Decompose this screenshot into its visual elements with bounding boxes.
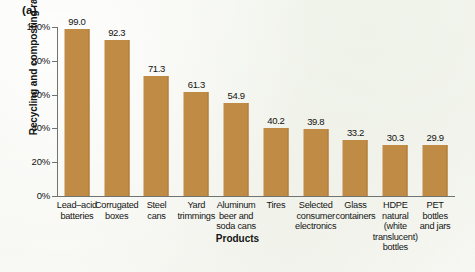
bar-value-label: 99.0 (68, 16, 85, 27)
x-axis-line (57, 196, 455, 197)
bar[interactable] (224, 103, 249, 196)
y-axis-tick-label-wrap: 60% (0, 89, 50, 100)
y-axis-tick-label: 0% (2, 190, 50, 201)
bar-group[interactable]: 61.3 (176, 27, 216, 196)
y-axis-tick-label-wrap: 0% (0, 190, 50, 201)
bar-group[interactable]: 30.3 (375, 27, 415, 196)
bar[interactable] (303, 129, 328, 196)
chart-figure: (a) Recycling and composting rate 100%80… (0, 0, 475, 272)
y-axis-tick-mark (52, 196, 58, 197)
bar-group[interactable]: 54.9 (216, 27, 256, 196)
bar-value-label: 54.9 (228, 90, 245, 101)
y-axis-tick-label: 100% (2, 21, 50, 32)
bar-value-label: 30.3 (387, 132, 404, 143)
bar-value-label: 39.8 (307, 116, 324, 127)
bar-group[interactable]: 40.2 (256, 27, 296, 196)
bar-group[interactable]: 33.2 (336, 27, 376, 196)
y-axis-tick-label-wrap: 40% (0, 122, 50, 133)
y-axis-tick-label: 20% (2, 156, 50, 167)
plot-area: 99.092.371.361.354.940.239.833.230.329.9 (57, 27, 455, 196)
bar[interactable] (184, 92, 209, 196)
bar[interactable] (263, 128, 288, 196)
bar-group[interactable]: 92.3 (97, 27, 137, 196)
y-axis-tick-label-wrap: 100% (0, 21, 50, 32)
bar[interactable] (343, 140, 368, 196)
bar[interactable] (104, 40, 129, 196)
bar-value-label: 71.3 (148, 63, 165, 74)
bar-value-label: 61.3 (188, 79, 205, 90)
y-axis-tick-label: 80% (2, 55, 50, 66)
bar-group[interactable]: 71.3 (137, 27, 177, 196)
x-axis-title: Products (0, 233, 475, 244)
bar-value-label: 33.2 (347, 127, 364, 138)
bar-value-label: 92.3 (108, 27, 125, 38)
bar-group[interactable]: 29.9 (415, 27, 455, 196)
y-axis-tick-label: 60% (2, 89, 50, 100)
y-axis-tick-label-wrap: 20% (0, 156, 50, 167)
bar[interactable] (144, 76, 169, 196)
y-axis-tick-label-wrap: 80% (0, 55, 50, 66)
bar-value-label: 29.9 (427, 132, 444, 143)
bar-group[interactable]: 99.0 (57, 27, 97, 196)
bar-value-label: 40.2 (267, 115, 284, 126)
bar[interactable] (423, 145, 448, 196)
y-axis-tick-label: 40% (2, 122, 50, 133)
x-axis-category-label: PETbottlesand jars (411, 200, 459, 232)
bar[interactable] (383, 145, 408, 196)
bar-group[interactable]: 39.8 (296, 27, 336, 196)
bar[interactable] (64, 29, 89, 196)
